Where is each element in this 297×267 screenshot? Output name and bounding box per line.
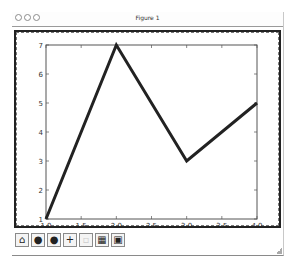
x-tick-label: 3.5 — [216, 222, 227, 226]
axes-frame — [46, 45, 257, 219]
window-title: Figure 1 — [12, 14, 283, 21]
x-tick-label: 2.5 — [146, 222, 157, 226]
home-button[interactable]: ⌂ — [15, 233, 29, 247]
x-tick-label: 1.5 — [76, 222, 87, 226]
y-tick-label: 6 — [39, 71, 44, 79]
x-tick-label: 3.0 — [181, 222, 192, 226]
configure-subplots-button[interactable]: ▦ — [95, 233, 109, 247]
subplots-icon: ▦ — [97, 235, 106, 245]
resize-grip-icon[interactable] — [276, 248, 282, 254]
x-tick-label: 2.0 — [111, 222, 122, 226]
line-chart: 1.01.52.02.53.03.54.01234567 — [16, 32, 279, 226]
save-icon: ▣ — [113, 235, 122, 245]
y-tick-label: 3 — [39, 158, 43, 166]
home-icon: ⌂ — [19, 235, 25, 245]
zoom-button[interactable]: ▫ — [79, 233, 93, 247]
y-tick-label: 1 — [39, 216, 43, 224]
save-button[interactable]: ▣ — [111, 233, 125, 247]
y-tick-label: 5 — [39, 100, 43, 108]
pan-button[interactable]: + — [63, 233, 77, 247]
navigation-toolbar: ⌂●●+▫▦▣ — [15, 233, 125, 249]
x-tick-label: 4.0 — [251, 222, 262, 226]
forward-button[interactable]: ● — [47, 233, 61, 247]
forward-icon: ● — [50, 235, 59, 245]
y-tick-label: 4 — [39, 129, 44, 137]
figure-canvas[interactable]: 1.01.52.02.53.03.54.01234567 — [14, 30, 281, 228]
pan-icon: + — [66, 235, 74, 245]
back-button[interactable]: ● — [31, 233, 45, 247]
title-bar[interactable]: Figure 1 — [12, 12, 283, 27]
zoom-icon: ▫ — [83, 235, 90, 245]
figure-window: Figure 1 1.01.52.02.53.03.54.01234567 ⌂●… — [12, 12, 284, 256]
back-icon: ● — [34, 235, 43, 245]
y-tick-label: 2 — [39, 187, 43, 195]
y-tick-label: 7 — [39, 42, 43, 50]
